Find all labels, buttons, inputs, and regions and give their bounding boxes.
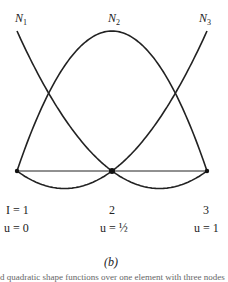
- curve-n1: [17, 31, 207, 189]
- node-1-u: u = 0: [4, 222, 29, 234]
- node-3-dot: [205, 169, 209, 173]
- label-n3: N3: [199, 12, 211, 29]
- node-1-dot: [15, 169, 19, 173]
- node-3-index: 3: [203, 204, 209, 216]
- figure-caption: (b): [104, 255, 118, 270]
- label-n1: N1: [15, 12, 27, 29]
- curve-n3: [17, 31, 207, 189]
- cut-off-text-line: d quadratic shape functions over one ele…: [0, 272, 228, 282]
- curve-n2: [17, 31, 207, 171]
- node-1-index: I = 1: [6, 204, 29, 216]
- node-2-u: u = ½: [100, 222, 128, 234]
- node-3-u: u = 1: [194, 222, 219, 234]
- label-n2: N2: [108, 12, 120, 29]
- node-2-index: 2: [109, 204, 115, 216]
- node-2-dot: [109, 168, 115, 174]
